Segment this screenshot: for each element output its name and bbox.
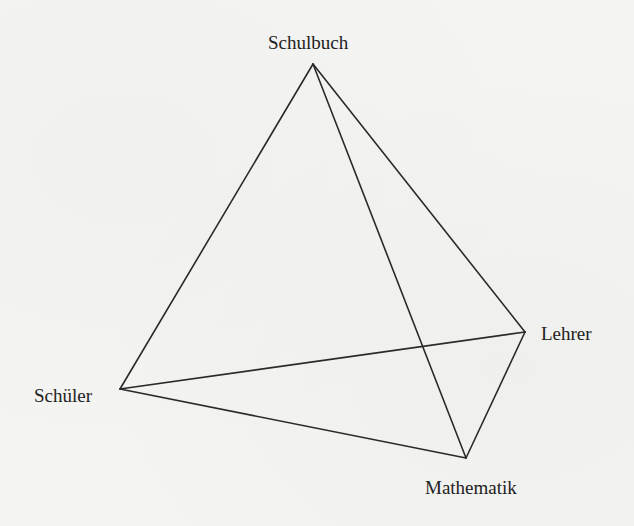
diagram-page: Schulbuch Lehrer Schüler Mathematik (0, 0, 634, 526)
edge-schulbuch-lehrer (313, 64, 525, 332)
vertex-label-lehrer: Lehrer (541, 324, 592, 343)
vertex-label-schulbuch: Schulbuch (268, 33, 348, 52)
edge-schulbuch-mathematik (313, 64, 466, 458)
edge-schueler-lehrer (120, 332, 525, 389)
vertex-label-mathematik: Mathematik (425, 478, 517, 497)
tetrahedron-diagram (0, 0, 634, 526)
edge-lehrer-mathematik (466, 332, 525, 458)
vertex-label-schueler: Schüler (34, 386, 92, 405)
edge-schulbuch-schueler (120, 64, 313, 389)
edge-schueler-mathematik (120, 389, 466, 458)
